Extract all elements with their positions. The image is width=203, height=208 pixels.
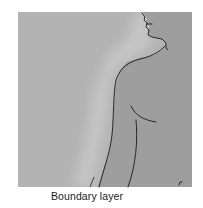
boundary-layer-label: Boundary layer [51,190,123,202]
boundary-layer-diagram [0,0,203,208]
